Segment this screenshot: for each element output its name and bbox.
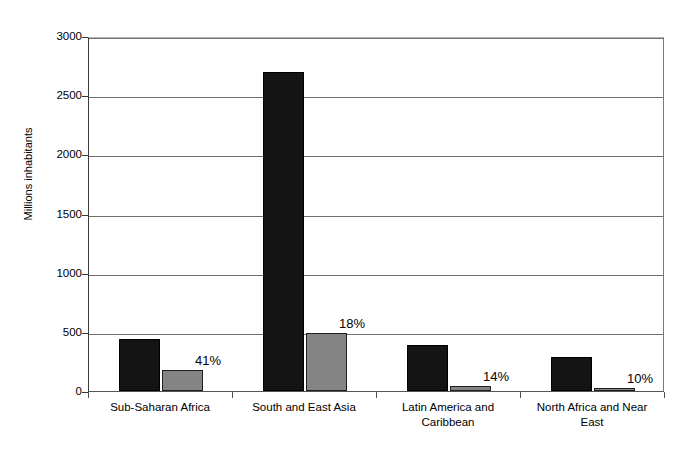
bar-total-population [119,339,160,391]
y-axis-tick-label: 3000 [36,31,82,42]
data-label-percentage: 14% [482,370,510,384]
x-axis-tick-mark [376,392,377,398]
gridline [89,97,663,98]
x-axis-tick-mark [88,392,89,398]
bar-total-population [551,357,592,391]
bar-undernourished-population [450,386,491,391]
data-label-percentage: 18% [338,317,366,331]
x-axis-category-line: Latin America and [376,400,520,415]
x-axis-tick-mark [232,392,233,398]
gridline [89,216,663,217]
gridline [89,38,663,39]
x-axis-category-label: Latin America andCaribbean [376,400,520,430]
x-axis-tick-mark [520,392,521,398]
gridline [89,156,663,157]
bar-undernourished-population [594,388,635,391]
y-axis-tick-mark [82,37,88,38]
y-axis-tick-mark [82,96,88,97]
x-axis-category-line: Caribbean [376,415,520,430]
x-axis-category-line: South and East Asia [232,400,376,415]
x-axis-category-line: North Africa and Near [520,400,664,415]
x-axis-category-label: South and East Asia [232,400,376,415]
bar-undernourished-population [162,370,203,391]
y-axis-tick-mark [82,155,88,156]
bar-undernourished-population [306,333,347,391]
x-axis-category-label: North Africa and NearEast [520,400,664,430]
x-axis-category-line: East [520,415,664,430]
y-axis-tick-label: 1000 [36,268,82,279]
y-axis-tick-label: 1500 [36,209,82,220]
y-axis-tick-label: 0 [36,386,82,397]
bar-total-population [263,72,304,392]
y-axis-tick-mark [82,274,88,275]
bar-total-population [407,345,448,391]
data-label-percentage: 41% [194,354,222,368]
y-axis-tick-label: 500 [36,327,82,338]
y-axis-tick-label: 2500 [36,90,82,101]
y-axis-tick-labels: 050010001500200025003000 [30,0,82,464]
data-label-percentage: 10% [626,372,654,386]
x-axis-category-label: Sub-Saharan Africa [88,400,232,415]
x-axis-tick-mark [664,392,665,398]
y-axis-tick-label: 2000 [36,149,82,160]
gridline [89,334,663,335]
y-axis-tick-mark [82,333,88,334]
y-axis-tick-mark [82,215,88,216]
plot-area [88,37,664,392]
bar-chart: Millions inhabitants 0500100015002000250… [0,0,695,464]
x-axis-category-line: Sub-Saharan Africa [88,400,232,415]
gridline [89,275,663,276]
